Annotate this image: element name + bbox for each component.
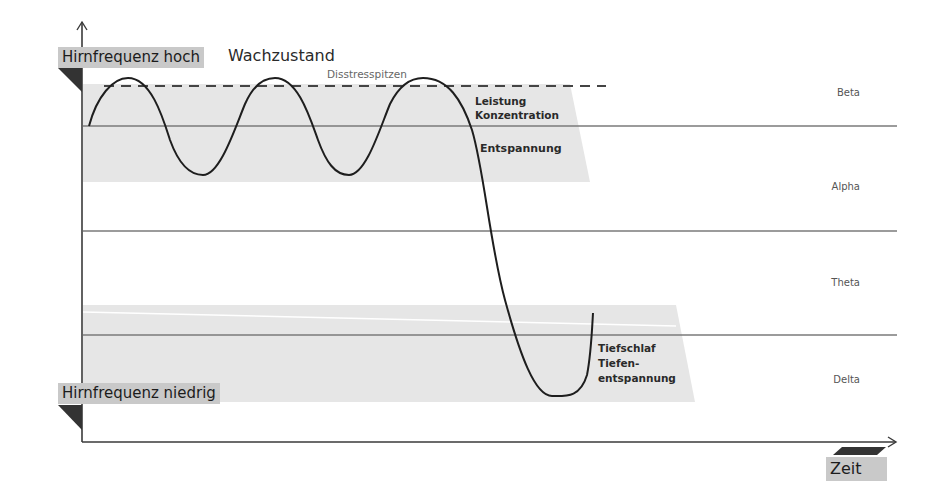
band-theta: Theta [800, 277, 860, 288]
y-low-label: Hirnfrequenz niedrig [58, 383, 220, 404]
deep-zone-label-1: Tiefschlaf [598, 341, 656, 355]
state-label: Wachzustand [228, 46, 335, 65]
relax-zone-label: Entspannung [480, 142, 562, 156]
y-high-label: Hirnfrequenz hoch [58, 47, 204, 68]
upper-zone-label-2: Konzentration [475, 108, 559, 122]
deep-zone-label-2: Tiefen- [598, 356, 639, 370]
low-marker-icon [58, 405, 82, 430]
high-marker-icon [58, 68, 82, 92]
x-label: Zeit [826, 457, 887, 481]
band-alpha: Alpha [800, 181, 860, 192]
band-delta: Delta [800, 374, 860, 385]
diagram-canvas [0, 0, 950, 496]
distress-peak-label: Disstresspitzen [327, 68, 407, 80]
band-beta: Beta [800, 87, 860, 98]
time-marker-icon [833, 447, 886, 455]
upper-zone-label-1: Leistung [475, 94, 526, 108]
deep-zone-label-3: entspannung [598, 371, 676, 385]
brainwave-diagram: Hirnfrequenz hoch Wachzustand Hirnfreque… [0, 0, 950, 496]
